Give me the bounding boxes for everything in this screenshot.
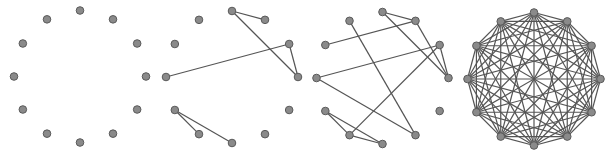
graph-node — [563, 18, 571, 26]
nodes — [162, 7, 302, 147]
graph-node — [76, 7, 84, 15]
graph-node — [436, 107, 444, 115]
graph-node — [10, 73, 18, 81]
graph-edge — [501, 21, 601, 79]
graph-node — [588, 108, 596, 116]
graph-node — [133, 106, 141, 114]
graph-node — [412, 17, 420, 25]
graph-edge — [317, 78, 416, 135]
graph-node — [142, 73, 150, 81]
graph-node — [346, 131, 354, 139]
graph-node — [313, 74, 321, 82]
graph-node — [109, 130, 117, 138]
graph-edge — [350, 135, 383, 144]
graph-edge — [317, 45, 440, 78]
graph-node — [195, 130, 203, 138]
graph-node — [19, 40, 27, 48]
graph-node — [445, 74, 453, 82]
panel-complete-graph — [464, 9, 605, 150]
graph-node — [261, 130, 269, 138]
graph-node — [76, 139, 84, 147]
graph-node — [285, 106, 293, 114]
graph-node — [346, 17, 354, 25]
graph-node — [133, 40, 141, 48]
graph-edge — [175, 110, 232, 143]
graph-node — [412, 131, 420, 139]
graph-node — [294, 73, 302, 81]
graph-edge — [166, 44, 289, 77]
graph-node — [43, 130, 51, 138]
graph-node — [228, 139, 236, 147]
graph-node — [171, 106, 179, 114]
graph-figure — [0, 0, 613, 157]
edges — [166, 11, 298, 143]
graph-node — [497, 133, 505, 141]
graph-edge — [325, 21, 415, 45]
graph-node — [162, 73, 170, 81]
graph-edge — [325, 111, 382, 144]
graph-node — [322, 107, 330, 115]
graph-node — [588, 42, 596, 50]
graph-node — [19, 106, 27, 114]
graph-node — [530, 9, 538, 17]
graph-node — [228, 7, 236, 15]
graph-node — [261, 16, 269, 24]
graph-node — [436, 41, 444, 49]
graph-node — [379, 140, 387, 148]
graph-node — [473, 42, 481, 50]
graph-node — [171, 40, 179, 48]
graph-node — [43, 16, 51, 24]
panel-denser-graph — [313, 8, 453, 148]
nodes — [10, 7, 150, 147]
edges — [468, 13, 601, 146]
graph-node — [530, 142, 538, 150]
graph-node — [322, 41, 330, 49]
graph-node — [285, 40, 293, 48]
edges — [317, 12, 449, 144]
panel-empty-graph — [10, 7, 150, 147]
graph-edge — [476, 46, 534, 146]
graph-node — [497, 18, 505, 26]
graph-node — [464, 75, 472, 83]
panel-sparse-graph — [162, 7, 302, 147]
graph-node — [195, 16, 203, 24]
graph-edge — [350, 45, 440, 135]
graph-node — [563, 133, 571, 141]
graph-edge — [350, 21, 416, 135]
graph-node — [597, 75, 605, 83]
graph-node — [109, 16, 117, 24]
graph-node — [379, 8, 387, 16]
graph-panels-canvas — [0, 0, 613, 157]
graph-node — [473, 108, 481, 116]
